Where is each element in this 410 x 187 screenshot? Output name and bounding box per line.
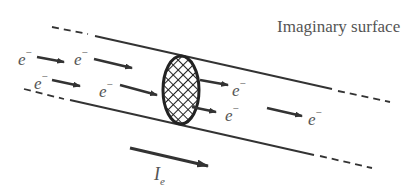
electron-label: e− [308, 108, 322, 130]
imaginary-surface-ellipse [163, 56, 199, 124]
arrow-icon [120, 85, 157, 95]
arrow-icon [37, 57, 64, 62]
arrow-icon [267, 108, 302, 116]
arrow-icon [94, 59, 132, 68]
electron-label: e− [74, 48, 88, 70]
arrow-icon [52, 80, 80, 86]
imaginary-surface-label: Imaginary surface [277, 17, 400, 37]
electron-label: e− [225, 104, 239, 126]
arrow-icon [200, 80, 228, 85]
electron-label: e− [232, 79, 246, 101]
current-arrow-icon [130, 148, 208, 166]
electron-label: e− [99, 80, 113, 102]
electron-label: e− [18, 48, 32, 70]
current-label: Ie [154, 164, 165, 187]
electron-label: e− [34, 72, 48, 94]
